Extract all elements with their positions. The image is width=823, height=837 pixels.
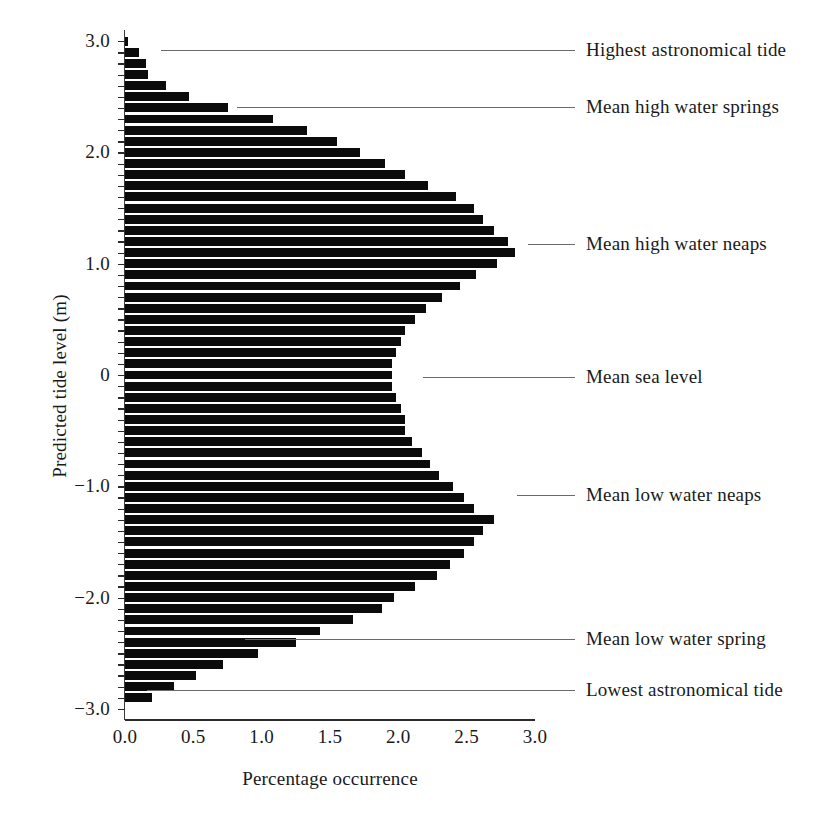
annotation-label: Mean sea level	[586, 366, 703, 388]
bar	[125, 460, 430, 469]
y-axis-tick	[118, 464, 125, 465]
bar	[125, 371, 392, 380]
bar	[125, 404, 401, 413]
bar	[125, 293, 442, 302]
x-axis-title: Percentage occurrence	[125, 768, 535, 790]
bar	[125, 615, 353, 624]
annotation-label: Lowest astronomical tide	[586, 679, 783, 701]
y-axis-tick	[118, 575, 125, 576]
bar	[125, 148, 360, 157]
bar	[125, 70, 148, 79]
y-axis-tick	[118, 664, 125, 665]
y-axis-tick	[118, 598, 125, 599]
y-axis-tick	[118, 275, 125, 276]
y-axis-tick	[118, 230, 125, 231]
y-axis-tick	[118, 564, 125, 565]
bar	[125, 304, 426, 313]
y-axis-tick	[118, 330, 125, 331]
annotation-leader-line	[147, 690, 575, 691]
y-axis-tick	[118, 119, 125, 120]
bar	[125, 426, 405, 435]
y-axis-tick	[118, 709, 125, 710]
y-axis-tick	[118, 520, 125, 521]
y-axis-tick	[118, 342, 125, 343]
annotation-leader-line	[517, 495, 575, 496]
x-axis-tick-label: 0.0	[113, 726, 138, 748]
annotation-label: Highest astronomical tide	[586, 39, 786, 61]
y-axis-tick	[118, 675, 125, 676]
y-axis-tick	[118, 264, 125, 265]
y-axis-tick	[118, 41, 125, 42]
bar	[125, 170, 405, 179]
y-axis-tick	[118, 420, 125, 421]
y-axis-tick-label: 1.0	[85, 253, 110, 275]
bar	[125, 627, 320, 636]
y-axis-tick	[118, 442, 125, 443]
y-axis-tick	[118, 241, 125, 242]
bar	[125, 248, 515, 257]
y-axis-tick-label: 2.0	[85, 141, 110, 163]
bar	[125, 215, 483, 224]
bar	[125, 693, 152, 702]
y-axis-tick-label: 0	[100, 364, 110, 386]
bar	[125, 515, 494, 524]
bar	[125, 537, 474, 546]
bar	[125, 549, 464, 558]
annotation-label: Mean low water neaps	[586, 484, 761, 506]
bar	[125, 571, 437, 580]
bar	[125, 337, 401, 346]
bar	[125, 59, 146, 68]
y-axis-tick	[118, 63, 125, 64]
bar	[125, 448, 422, 457]
bar	[125, 115, 273, 124]
y-axis-tick	[118, 86, 125, 87]
y-axis-tick	[118, 141, 125, 142]
y-axis-tick	[118, 175, 125, 176]
annotation-label: Mean high water springs	[586, 96, 779, 118]
bar	[125, 126, 307, 135]
annotation-leader-line	[161, 50, 575, 51]
y-axis-tick	[118, 609, 125, 610]
bar	[125, 92, 189, 101]
tide-occurrence-chart: Highest astronomical tideMean high water…	[0, 0, 823, 837]
y-axis-tick	[118, 319, 125, 320]
x-axis-tick-label: 2.0	[386, 726, 411, 748]
bar	[125, 582, 415, 591]
bar	[125, 137, 337, 146]
x-axis-tick-label: 3.0	[523, 726, 548, 748]
x-axis-tick-label: 0.5	[181, 726, 206, 748]
bar	[125, 437, 412, 446]
bar	[125, 593, 394, 602]
y-axis-tick	[118, 97, 125, 98]
y-axis-tick	[118, 375, 125, 376]
bar	[125, 471, 439, 480]
y-axis-tick	[118, 687, 125, 688]
y-axis-tick	[118, 52, 125, 53]
bar	[125, 382, 392, 391]
bar	[125, 526, 483, 535]
y-axis-tick-label: 3.0	[85, 30, 110, 52]
y-axis-tick	[118, 698, 125, 699]
y-axis-tick-label: −2.0	[74, 587, 110, 609]
bar	[125, 348, 396, 357]
y-axis-tick	[118, 453, 125, 454]
y-axis-tick	[118, 253, 125, 254]
y-axis-tick	[118, 653, 125, 654]
y-axis-tick	[118, 130, 125, 131]
y-axis-tick	[118, 75, 125, 76]
bar	[125, 660, 223, 669]
y-axis-tick-label: −3.0	[74, 698, 110, 720]
bar	[125, 326, 405, 335]
y-axis-tick	[118, 586, 125, 587]
y-axis-tick-label: −1.0	[74, 475, 110, 497]
bar	[125, 504, 474, 513]
bar	[125, 37, 128, 46]
bar	[125, 282, 460, 291]
annotation-leader-line	[237, 107, 575, 108]
bar	[125, 560, 450, 569]
annotation-leader-line	[528, 244, 575, 245]
annotation-label: Mean high water neaps	[586, 233, 767, 255]
x-axis-tick-label: 1.5	[318, 726, 343, 748]
y-axis-tick	[118, 553, 125, 554]
bar	[125, 237, 508, 246]
